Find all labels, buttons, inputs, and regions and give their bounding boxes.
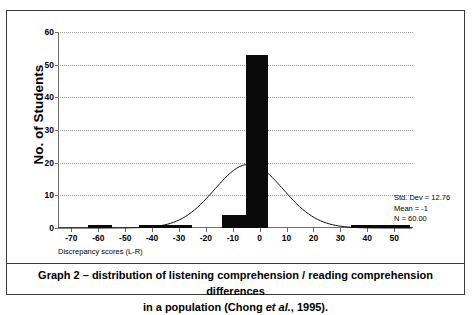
gridline [58, 130, 413, 131]
gridline [58, 195, 413, 196]
histogram-bar [222, 215, 246, 228]
plot-area: 0102030405060 -70-60-50-40-30-20-1001020… [58, 32, 413, 228]
y-tick-mark [55, 97, 58, 98]
x-tick-label: 30 [336, 233, 345, 243]
y-tick-label: 10 [45, 190, 54, 200]
y-tick-label: 60 [45, 27, 54, 37]
y-tick-label: 30 [45, 125, 54, 135]
caption-line-2-pre: in a population (Chong [143, 301, 266, 313]
y-tick-mark [55, 130, 58, 131]
x-tick-mark [394, 228, 395, 232]
y-tick-mark [55, 228, 58, 229]
histogram-bar [246, 55, 268, 228]
stat-mean: Mean = -1 [394, 204, 450, 215]
x-tick-label: 10 [282, 233, 291, 243]
y-tick-mark [55, 32, 58, 33]
x-tick-label: 40 [363, 233, 372, 243]
x-tick-mark [340, 228, 341, 232]
x-tick-label: -30 [173, 233, 185, 243]
x-tick-mark [313, 228, 314, 232]
x-tick-mark [287, 228, 288, 232]
x-tick-label: -50 [119, 233, 131, 243]
x-tick-mark [260, 228, 261, 232]
y-axis-title: No. of Students [31, 35, 46, 195]
gridline [58, 163, 413, 164]
x-tick-mark [71, 228, 72, 232]
x-tick-mark [179, 228, 180, 232]
y-tick-label: 40 [45, 92, 54, 102]
histogram-bar [88, 225, 112, 228]
chart-region: No. of Students 0102030405060 -70-60-50-… [7, 11, 464, 263]
caption-line-2: in a population (Chong et al., 1995). [15, 299, 456, 315]
x-tick-label: -60 [92, 233, 104, 243]
y-tick-label: 0 [49, 223, 54, 233]
statistics-annotation: Std. Dev = 12.76 Mean = -1 N = 60.00 [394, 193, 450, 225]
x-tick-label: 20 [309, 233, 318, 243]
x-tick-mark [125, 228, 126, 232]
y-tick-mark [55, 65, 58, 66]
x-tick-label: -10 [227, 233, 239, 243]
x-tick-label: -20 [200, 233, 212, 243]
y-tick-mark [55, 195, 58, 196]
gridline [58, 97, 413, 98]
x-tick-mark [367, 228, 368, 232]
figure-container: No. of Students 0102030405060 -70-60-50-… [6, 10, 465, 295]
caption-line-1: Graph 2 – distribution of listening comp… [15, 267, 456, 299]
x-tick-label: 50 [389, 233, 398, 243]
x-tick-label: -70 [65, 233, 77, 243]
figure-caption: Graph 2 – distribution of listening comp… [7, 267, 464, 315]
x-tick-mark [233, 228, 234, 232]
y-tick-mark [55, 163, 58, 164]
x-tick-label: -40 [146, 233, 158, 243]
y-tick-label: 20 [45, 158, 54, 168]
histogram-bar [139, 225, 193, 228]
caption-divider [7, 263, 464, 264]
caption-et-al: et al. [266, 301, 291, 313]
caption-line-2-post: , 1995). [291, 301, 328, 313]
gridline [58, 65, 413, 66]
x-axis-title: Discrepancy scores (L-R) [58, 247, 143, 256]
histogram-bar [351, 225, 410, 228]
x-tick-mark [98, 228, 99, 232]
x-tick-mark [206, 228, 207, 232]
x-tick-label: 0 [257, 233, 262, 243]
gridline [58, 32, 413, 33]
x-tick-mark [152, 228, 153, 232]
y-tick-label: 50 [45, 60, 54, 70]
stat-std-dev: Std. Dev = 12.76 [394, 193, 450, 204]
stat-n: N = 60.00 [394, 214, 450, 225]
